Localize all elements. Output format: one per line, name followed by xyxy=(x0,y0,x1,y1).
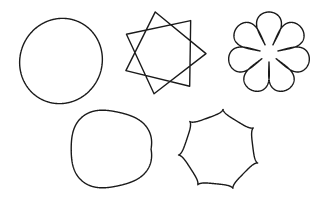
hypocycloid-star-shape xyxy=(179,109,258,188)
figure-canvas xyxy=(0,0,328,202)
wavy-circle-shape xyxy=(71,110,151,188)
rose-flower-shape xyxy=(229,12,310,91)
heptagram-shape xyxy=(126,12,206,94)
shapes-svg xyxy=(0,0,328,202)
ellipse-shape xyxy=(20,18,103,103)
